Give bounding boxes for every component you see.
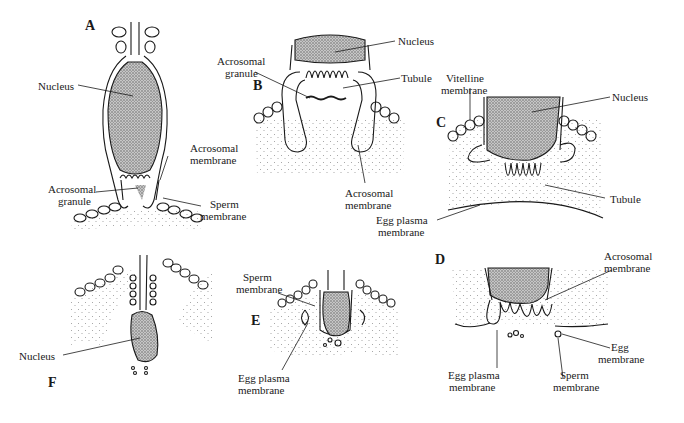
label-b-acrosomal-membrane-2: membrane bbox=[345, 199, 391, 211]
label-a-sperm-membrane-2: membrane bbox=[200, 210, 246, 222]
label-b-tubule: Tubule bbox=[401, 72, 432, 84]
label-d-egg-plasma-membrane-2: membrane bbox=[449, 381, 495, 393]
label-c-egg-plasma-membrane-1: Egg plasma bbox=[376, 214, 428, 226]
label-e-egg-plasma-membrane-2: membrane bbox=[238, 384, 284, 396]
label-c-tubule: Tubule bbox=[610, 193, 641, 205]
label-c-egg-plasma-membrane-2: membrane bbox=[378, 226, 424, 238]
label-e-egg-plasma-membrane-1: Egg plasma bbox=[238, 372, 290, 384]
label-a-acrosomal-membrane-1: Acrosomal bbox=[190, 142, 238, 154]
panel-letter-f: F bbox=[48, 375, 57, 391]
label-d-egg-plasma-membrane-1: Egg plasma bbox=[448, 369, 500, 381]
label-e-sperm-membrane-2: membrane bbox=[236, 283, 282, 295]
panel-letter-d: D bbox=[435, 252, 445, 268]
panel-e-drawing bbox=[270, 270, 400, 358]
label-d-sperm-membrane-1: Sperm bbox=[560, 369, 589, 381]
label-c-nucleus: Nucleus bbox=[612, 91, 648, 103]
figure-canvas bbox=[0, 0, 684, 423]
panel-f-drawing bbox=[70, 255, 213, 375]
label-a-acrosomal-granule-1: Acrosomal bbox=[48, 183, 96, 195]
label-d-acrosomal-membrane-2: membrane bbox=[604, 262, 650, 274]
panel-d-drawing bbox=[452, 268, 610, 338]
panel-b-drawing bbox=[254, 35, 405, 174]
label-b-acrosomal-granule-1: Acrosomal bbox=[217, 55, 265, 67]
label-a-nucleus: Nucleus bbox=[38, 80, 74, 92]
label-a-sperm-membrane-1: Sperm bbox=[210, 198, 239, 210]
label-d-egg-membrane-2: membrane bbox=[598, 353, 644, 365]
label-f-nucleus: Nucleus bbox=[19, 350, 55, 362]
label-c-vitelline-membrane-2: membrane bbox=[441, 84, 487, 96]
panel-c-drawing bbox=[448, 97, 603, 218]
label-b-acrosomal-membrane-1: Acrosomal bbox=[345, 187, 393, 199]
panel-letter-b: B bbox=[253, 78, 262, 94]
panel-letter-a: A bbox=[85, 18, 95, 34]
label-e-sperm-membrane-1: Sperm bbox=[243, 271, 272, 283]
label-b-nucleus: Nucleus bbox=[398, 35, 434, 47]
label-d-acrosomal-membrane-1: Acrosomal bbox=[604, 250, 652, 262]
panel-letter-c: C bbox=[436, 115, 446, 131]
label-a-acrosomal-granule-2: granule bbox=[58, 195, 91, 207]
vitelline-cells-b bbox=[254, 102, 399, 123]
panel-letter-e: E bbox=[251, 313, 260, 329]
label-d-egg-membrane-1: Egg bbox=[611, 341, 629, 353]
label-d-sperm-membrane-2: membrane bbox=[553, 381, 599, 393]
label-c-vitelline-membrane-1: Vitelline bbox=[446, 72, 484, 84]
label-a-acrosomal-membrane-2: membrane bbox=[190, 154, 236, 166]
label-b-acrosomal-granule-2: granule bbox=[225, 67, 258, 79]
